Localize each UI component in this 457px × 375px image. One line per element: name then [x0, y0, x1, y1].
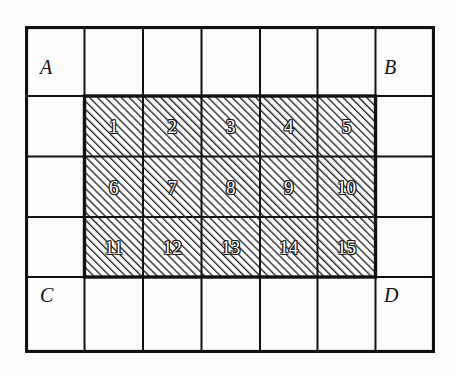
- cell-number: 4: [284, 117, 294, 136]
- cell-number: 9: [284, 177, 294, 196]
- cell-number: 1: [109, 117, 119, 136]
- cell-number: 12: [163, 238, 182, 257]
- cell-number: 8: [226, 177, 236, 196]
- corner-label-a: A: [40, 57, 52, 77]
- corner-label-b: B: [384, 57, 396, 77]
- cell-number: 2: [168, 117, 178, 136]
- cell-number: 3: [226, 117, 236, 136]
- cell-number: 6: [109, 177, 119, 196]
- cell-number: 14: [279, 238, 298, 257]
- cell-number: 7: [168, 177, 178, 196]
- grid-figure: A B D C 123456789101112131415: [0, 0, 457, 375]
- cell-number: 5: [342, 117, 352, 136]
- cell-number: 10: [337, 177, 356, 196]
- corner-label-c: D: [384, 285, 398, 305]
- cell-number: 13: [221, 238, 240, 257]
- cell-number: 15: [337, 238, 356, 257]
- cell-number: 11: [105, 238, 123, 257]
- corner-label-d: C: [40, 285, 53, 305]
